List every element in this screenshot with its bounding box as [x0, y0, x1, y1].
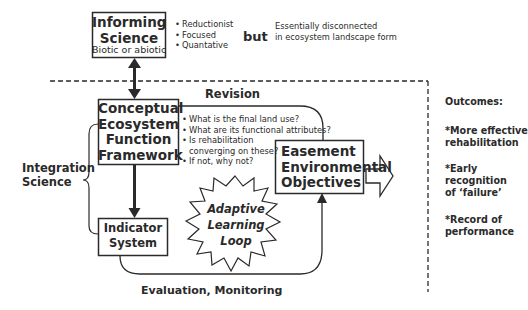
outcome-line: *Early: [445, 163, 507, 175]
bullet-item: Focused: [175, 30, 233, 41]
outcome-line: *Record of: [445, 214, 514, 226]
framework-line: Conceptual: [98, 101, 179, 117]
outcome-line: *More effective: [445, 125, 528, 137]
framework-title: Conceptual Ecosystem Function Framework: [98, 101, 179, 163]
outcome-line: performance: [445, 226, 514, 238]
bullet-item: Reductionist: [175, 19, 233, 30]
note-line1: Essentially disconnected: [275, 21, 397, 32]
outcome-item-1: *More effective rehabilitation: [445, 125, 528, 149]
adaptive-line: Adaptive: [198, 201, 274, 217]
informing-science-bullets: Reductionist Focused Quantative: [175, 19, 233, 51]
note-line2: in ecosystem landscape form: [275, 32, 397, 43]
framework-line: Function: [98, 132, 179, 148]
informing-title-line1: Informing: [92, 15, 166, 31]
informing-science-title: Informing Science: [92, 15, 166, 46]
question-item: What is the final land use?: [182, 114, 331, 125]
framework-line: Ecosystem: [98, 117, 179, 133]
integration-line2: Science: [22, 175, 95, 189]
outcomes-panel: Outcomes:: [445, 96, 503, 108]
bullet-item: Quantative: [175, 40, 233, 51]
integration-line1: Integration: [22, 161, 95, 175]
double-arrow-icon: [128, 58, 141, 99]
framework-line: Framework: [98, 148, 179, 164]
integration-science-label: Integration Science: [22, 161, 95, 189]
outcome-line: recognition: [445, 175, 507, 187]
outcomes-title: Outcomes:: [445, 96, 503, 108]
outcome-line: rehabilitation: [445, 137, 528, 149]
adaptive-line: Learning: [198, 217, 274, 233]
disconnected-note: Essentially disconnected in ecosystem la…: [275, 21, 397, 42]
easement-line: Environmental: [281, 160, 392, 176]
indicator-title: Indicator System: [98, 221, 168, 251]
outcome-item-3: *Record of performance: [445, 214, 514, 238]
connector-word: but: [243, 30, 268, 43]
informing-science-subtitle: Biotic or abiotic: [92, 45, 166, 55]
evaluation-label: Evaluation, Monitoring: [141, 285, 282, 296]
indicator-line: Indicator: [98, 221, 168, 236]
question-item: What are its functional attributes?: [182, 125, 331, 136]
outcome-item-2: *Early recognition of ‘failure’: [445, 163, 507, 199]
indicator-line: System: [98, 236, 168, 251]
adaptive-loop-label: Adaptive Learning Loop: [198, 201, 274, 249]
easement-line: Objectives: [281, 175, 392, 191]
adaptive-line: Loop: [198, 233, 274, 249]
easement-title: Easement Environmental Objectives: [281, 144, 392, 191]
outcome-line: of ‘failure’: [445, 187, 507, 199]
revision-label: Revision: [205, 89, 260, 101]
up-arrow-icon: [317, 193, 327, 203]
easement-line: Easement: [281, 144, 392, 160]
